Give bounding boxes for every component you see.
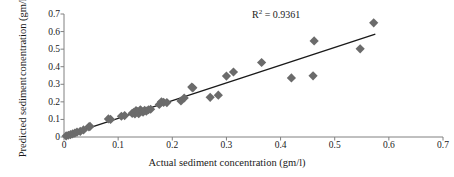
data-point-marker <box>369 18 378 27</box>
data-point-marker <box>214 91 223 100</box>
data-point-marker <box>356 44 365 53</box>
data-point-marker <box>287 73 296 82</box>
x-axis-title: Actual sediment concentration (gm/l) <box>0 156 454 169</box>
data-point-marker <box>308 71 317 80</box>
r-squared-prefix: R <box>252 9 259 20</box>
r-squared-annotation: R2 = 0.9361 <box>252 6 300 21</box>
data-point-marker <box>310 36 319 45</box>
data-points <box>62 18 379 140</box>
data-point-marker <box>188 83 197 92</box>
data-point-marker <box>222 71 231 80</box>
data-point-marker <box>229 67 238 76</box>
scatter-chart-figure: Predicted sediment conentration (gm/l) 0… <box>0 0 454 177</box>
r-squared-value: = 0.9361 <box>262 9 300 20</box>
data-point-marker <box>257 58 266 67</box>
data-point-marker <box>206 93 215 102</box>
axis-tick-marks <box>61 14 444 141</box>
plot-area <box>0 0 454 177</box>
